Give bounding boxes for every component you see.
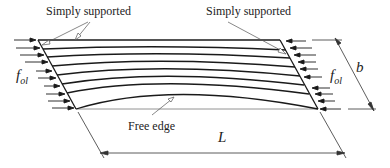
free-edge-label: Free edge	[128, 119, 175, 134]
load-left-label: fol	[16, 67, 28, 86]
load-right-label: fol	[330, 67, 342, 86]
free-edge-curve	[76, 95, 318, 110]
plate	[38, 40, 318, 109]
width-label: b	[356, 59, 364, 76]
length-dimension	[78, 112, 346, 158]
support-left-label: Simply supported	[46, 4, 131, 19]
length-label: L	[218, 129, 226, 146]
support-right-label: Simply supported	[206, 4, 291, 19]
free-edge-leader	[152, 97, 174, 115]
support-left-leaders	[42, 22, 90, 45]
